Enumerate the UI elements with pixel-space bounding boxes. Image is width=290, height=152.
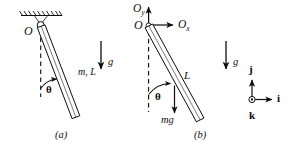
- gravity-label-b: g: [233, 57, 238, 68]
- reaction-ox-label: Ox: [178, 19, 190, 33]
- angle-label-b: θ: [155, 91, 161, 102]
- origin-label-b: O: [134, 19, 143, 31]
- rod-a: [37, 25, 80, 119]
- rod-label-a: m, L: [78, 67, 96, 77]
- basis-i-label: i: [277, 93, 280, 104]
- gravity-label-a: g: [108, 57, 113, 68]
- caption-b: (b): [194, 130, 206, 141]
- reaction-oy-label: Oy: [133, 3, 145, 17]
- figure-vector-layer: [0, 0, 290, 152]
- pivot-label-a: O: [24, 25, 33, 37]
- basis-triad-graphics: [249, 80, 272, 103]
- basis-k-center-dot: [251, 98, 253, 100]
- physics-figure: O θ m, L g (a) Oy O Ox L θ mg g (b) j i …: [0, 0, 290, 152]
- weight-label-mg: mg: [161, 115, 174, 126]
- caption-a: (a): [55, 130, 67, 141]
- basis-k-label: k: [249, 110, 255, 121]
- ceiling-support-a: [20, 11, 63, 16]
- reaction-ox-subscript: x: [186, 24, 189, 33]
- basis-j-label: j: [249, 64, 253, 75]
- angle-label-a: θ: [46, 84, 52, 95]
- rod-length-label-b: L: [184, 70, 190, 81]
- reaction-oy-subscript: y: [141, 8, 144, 17]
